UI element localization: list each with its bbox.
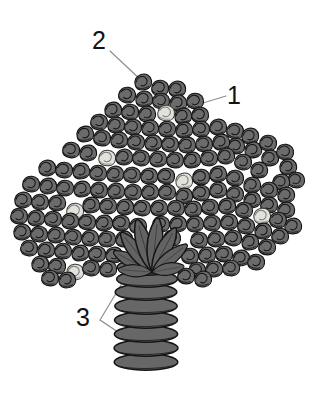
floret <box>54 243 72 260</box>
floret <box>149 151 167 168</box>
floret <box>258 239 276 256</box>
floret <box>56 180 74 196</box>
callout-label-3: 3 <box>76 305 90 330</box>
floret <box>140 168 158 184</box>
floret <box>99 261 117 278</box>
floret <box>112 215 130 232</box>
floret <box>184 201 202 217</box>
figure-root: 1 2 3 <box>0 0 314 395</box>
floret <box>178 137 196 153</box>
floret <box>222 260 240 276</box>
callout-label-2: 2 <box>92 28 106 53</box>
floret <box>192 169 210 186</box>
floret <box>235 202 253 219</box>
floret <box>209 182 227 199</box>
floret <box>138 106 156 122</box>
floret <box>243 177 261 194</box>
floret <box>207 231 225 248</box>
floret <box>98 231 116 247</box>
floret <box>158 184 176 201</box>
floret <box>158 121 176 137</box>
floret <box>89 165 107 182</box>
plant-diagram-svg <box>0 0 314 395</box>
floret <box>99 198 117 214</box>
floret <box>61 213 79 230</box>
floret <box>200 150 218 166</box>
floret <box>220 214 238 230</box>
floret <box>209 119 227 136</box>
floret <box>48 195 66 212</box>
callout-label-1: 1 <box>227 83 241 108</box>
